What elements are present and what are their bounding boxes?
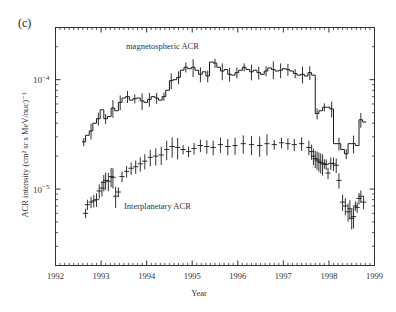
x-axis-title: Year	[191, 288, 207, 298]
x-tick-label: 1992	[47, 271, 64, 281]
series-magnetospheric	[82, 59, 366, 159]
x-tick-label: 1998	[320, 271, 337, 281]
x-tick-label: 1999	[366, 271, 383, 281]
y-tick-label: 10−4	[33, 74, 50, 86]
magnetospheric-step-line	[82, 62, 366, 154]
annotation-interplanetary: Interplanetary ACR	[124, 201, 191, 211]
x-tick-label: 1996	[229, 271, 246, 281]
y-axis-title: ACR intensity (cm² sr s MeV/nuc)⁻¹	[20, 70, 30, 240]
x-tick-label: 1997	[275, 271, 292, 281]
x-tick-label: 1993	[93, 271, 110, 281]
x-tick-label: 1995	[184, 271, 201, 281]
annotation-magnetospheric: magnetospheric ACR	[126, 41, 199, 51]
y-tick-label: 10−5	[33, 183, 50, 195]
x-tick-label: 1994	[138, 271, 156, 281]
series-interplanetary	[83, 134, 366, 229]
